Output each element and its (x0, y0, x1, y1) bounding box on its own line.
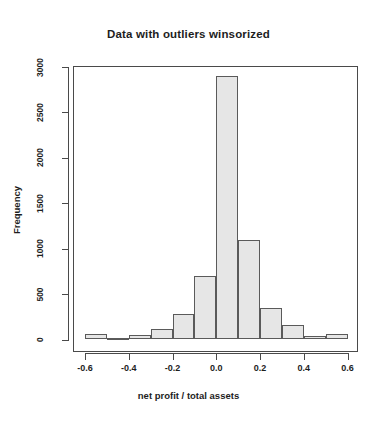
x-axis-tick (348, 353, 349, 360)
y-axis-tick (62, 158, 69, 159)
y-axis-tick-label: 2000 (35, 138, 46, 178)
x-axis-tick (260, 353, 261, 360)
x-axis-tick (129, 353, 130, 360)
y-axis-tick (62, 340, 69, 341)
y-axis-tick-label: 500 (35, 274, 46, 314)
x-axis-tick (85, 353, 86, 360)
y-axis-tick (62, 294, 69, 295)
plot-area-frame (73, 66, 358, 352)
y-axis-tick-label: 2500 (35, 92, 46, 132)
histogram-figure: Data with outliers winsorized Frequency … (0, 0, 377, 424)
y-axis-tick (62, 112, 69, 113)
x-axis-tick-label: 0.0 (196, 363, 236, 373)
y-axis-tick-label: 1500 (35, 183, 46, 223)
y-axis-tick-label: 0 (35, 320, 46, 360)
x-axis-tick-label: 0.2 (240, 363, 280, 373)
y-axis-tick (62, 203, 69, 204)
y-axis-label: Frequency (11, 150, 25, 270)
x-axis-tick-label: 0.4 (284, 363, 324, 373)
x-axis-tick (173, 353, 174, 360)
chart-title: Data with outliers winsorized (0, 28, 377, 40)
x-axis-label: net profit / total assets (0, 390, 377, 401)
x-axis-tick-label: -0.4 (109, 363, 149, 373)
x-axis-tick-label: -0.2 (153, 363, 193, 373)
x-axis-tick (304, 353, 305, 360)
y-axis-tick (62, 249, 69, 250)
x-axis-tick-label: -0.6 (65, 363, 105, 373)
y-axis-tick-label: 1000 (35, 229, 46, 269)
y-axis-tick (62, 67, 69, 68)
x-axis-tick (216, 353, 217, 360)
y-axis-tick-label: 3000 (35, 47, 46, 87)
x-axis-tick-label: 0.6 (328, 363, 368, 373)
